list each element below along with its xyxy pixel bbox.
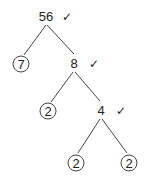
node-2: 2 <box>125 156 132 171</box>
node-8: 8 <box>70 56 77 71</box>
tree-edges <box>24 25 127 153</box>
check-icon: ✓ <box>116 104 126 118</box>
edge-4-2b <box>102 119 127 153</box>
check-icon: ✓ <box>89 57 99 71</box>
edge-8-4 <box>75 72 100 101</box>
node-7: 7 <box>17 57 24 72</box>
edge-56-7 <box>24 25 46 55</box>
node-56: 56 <box>39 9 53 24</box>
factor-tree: 56 ✓ 7 8 ✓ 2 4 ✓ 2 2 <box>0 0 144 176</box>
edge-4-2a <box>78 119 100 153</box>
node-2: 2 <box>72 156 79 171</box>
node-4: 4 <box>97 103 104 118</box>
edge-56-8 <box>47 25 74 54</box>
node-2: 2 <box>44 104 51 119</box>
edge-8-2 <box>51 72 73 102</box>
check-icon: ✓ <box>62 10 72 24</box>
